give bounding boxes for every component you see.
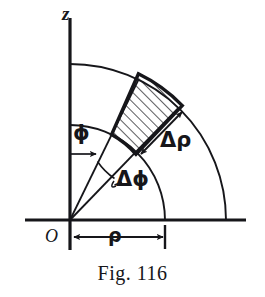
delta-phi-arc bbox=[98, 162, 115, 179]
delta-phi-label: Δϕ bbox=[116, 169, 149, 190]
z-axis-label: z bbox=[62, 4, 69, 23]
origin-label: O bbox=[45, 227, 58, 245]
delta-rho-label: Δρ bbox=[160, 130, 191, 151]
rho-label: ρ bbox=[108, 226, 122, 245]
phi-label: ϕ bbox=[73, 123, 90, 144]
figure-116: z O ϕ ρ Δρ Δϕ Fig. 116 bbox=[0, 0, 265, 297]
figure-caption: Fig. 116 bbox=[0, 263, 265, 283]
cylindrical-coordinates-diagram bbox=[0, 0, 265, 297]
